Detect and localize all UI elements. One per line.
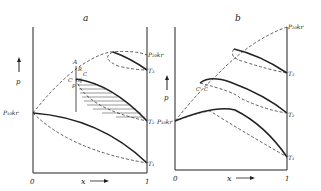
panel-b-y-label: p (164, 94, 169, 102)
label-p2kr: P₂₀kr (147, 51, 164, 58)
label-p1kr: P₁₀kr (156, 118, 173, 125)
label-A: A (72, 58, 78, 65)
panel-b-x-label: x (227, 174, 232, 183)
arrow-head-icon (250, 176, 255, 180)
label-T3: T₃ (148, 67, 155, 74)
label-C: C (83, 71, 87, 77)
panel-a-x-label: x (81, 177, 86, 186)
T2-bubble-curve (200, 79, 287, 113)
label-T2: T₂ (148, 118, 155, 125)
T1-dew-curve (175, 111, 287, 157)
label-p2kr: P₂₀kr (287, 23, 304, 30)
T2-region (77, 80, 147, 120)
T3-bubble-curve (113, 52, 147, 70)
label-Cprime: C' (196, 86, 201, 92)
arrow-head-icon (165, 75, 169, 80)
label-R: R (77, 66, 82, 72)
label-T1: T₁ (148, 160, 154, 167)
panel-a-x-start: 0 (30, 178, 35, 186)
label-Q: Q (78, 77, 82, 83)
label-T2: T₂ (288, 111, 295, 118)
T1-bubble-curve (33, 113, 147, 163)
T3-dew-curve (108, 52, 147, 70)
label-P: P (71, 83, 76, 89)
T1-bubble-curve (175, 109, 287, 157)
arrow-head-icon (17, 57, 21, 62)
phase-diagram: a p x 0 1 (0, 0, 321, 191)
two-phase-hatching (78, 85, 145, 117)
panel-b-x-start: 0 (173, 175, 178, 183)
label-p1kr: P₁₀kr (2, 109, 19, 116)
label-T3: T₃ (288, 70, 295, 77)
arrow-head-icon (104, 179, 109, 183)
panel-a: a p x 0 1 (2, 13, 164, 186)
panel-b-x-end: 1 (285, 175, 289, 183)
T3-dew-curve (232, 49, 287, 73)
label-T1: T₁ (288, 154, 294, 161)
T2-bubble-curve (76, 79, 147, 121)
panel-a-x-end: 1 (145, 178, 149, 186)
T2-dew-curve (76, 79, 147, 121)
panel-b: b p x 0 1 P₁₀kr P₂₀kr T₁ T₂ T₃ C' C (156, 13, 304, 183)
panel-a-title: a (83, 13, 88, 23)
panel-b-title: b (235, 13, 241, 23)
T1-dew-curve (33, 113, 147, 163)
critical-locus-curve (175, 27, 287, 121)
panel-a-y-label: p (16, 78, 21, 86)
label-C: C (204, 86, 208, 92)
